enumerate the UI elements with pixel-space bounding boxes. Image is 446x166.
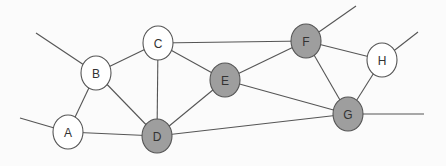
edge-e-g bbox=[225, 80, 348, 114]
node-b: B bbox=[81, 56, 111, 90]
node-h: H bbox=[367, 43, 397, 77]
node-f: F bbox=[291, 24, 321, 58]
node-label: B bbox=[92, 67, 100, 81]
graph-canvas: ABCDEFHG bbox=[0, 0, 446, 166]
node-e: E bbox=[210, 63, 240, 97]
graph-diagram: ABCDEFHG bbox=[0, 0, 446, 166]
edge-d-g bbox=[157, 114, 348, 136]
node-label: D bbox=[153, 130, 162, 144]
node-label: H bbox=[378, 54, 387, 68]
edge-c-f bbox=[158, 41, 306, 43]
node-d: D bbox=[142, 119, 172, 153]
node-label: C bbox=[154, 37, 163, 51]
node-label: G bbox=[343, 108, 352, 122]
node-label: E bbox=[221, 74, 229, 88]
node-label: F bbox=[302, 35, 309, 49]
node-a: A bbox=[53, 115, 83, 149]
node-c: C bbox=[143, 26, 173, 60]
node-g: G bbox=[333, 97, 363, 131]
node-label: A bbox=[64, 126, 72, 140]
